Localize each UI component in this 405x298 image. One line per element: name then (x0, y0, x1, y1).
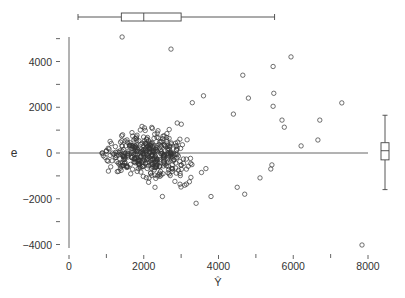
data-point (204, 166, 208, 170)
data-point (190, 101, 194, 105)
data-point (120, 35, 124, 39)
x-tick-label: 8000 (356, 260, 380, 272)
data-point (289, 55, 293, 59)
data-point (129, 172, 133, 176)
y-box-iqr (381, 143, 389, 160)
data-point (271, 104, 275, 108)
data-point (119, 134, 123, 138)
data-point (113, 144, 117, 148)
y-tick-label: −2000 (23, 193, 53, 205)
data-point (243, 192, 247, 196)
data-point (120, 133, 124, 137)
data-point (130, 167, 134, 171)
data-point (318, 118, 322, 122)
data-point (340, 101, 344, 105)
data-point (109, 165, 113, 169)
data-point (153, 185, 157, 189)
data-point (169, 47, 173, 51)
data-point (271, 64, 275, 68)
data-point (246, 96, 250, 100)
data-point (184, 157, 188, 161)
data-point (152, 136, 156, 140)
data-point (179, 167, 183, 171)
data-point (199, 170, 203, 174)
data-point (179, 185, 183, 189)
data-point (231, 112, 235, 116)
data-points (100, 35, 364, 247)
data-point (175, 121, 179, 125)
x-tick-label: 6000 (282, 260, 306, 272)
y-tick-label: −4000 (23, 239, 53, 251)
data-point (187, 180, 191, 184)
data-point (145, 166, 149, 170)
axes: −4000−200002000400002000400060008000 (23, 37, 380, 272)
y-tick-label: 2000 (29, 101, 53, 113)
x-tick-label: 4000 (207, 260, 231, 272)
data-point (282, 125, 286, 129)
data-point (270, 163, 274, 167)
data-point (258, 176, 262, 180)
data-point (235, 185, 239, 189)
data-point (189, 175, 193, 179)
x-tick-label: 2000 (132, 260, 156, 272)
data-point (272, 91, 276, 95)
data-point (160, 194, 164, 198)
data-point (185, 138, 189, 142)
data-point (179, 122, 183, 126)
data-point (280, 118, 284, 122)
data-point (241, 73, 245, 77)
data-point (209, 194, 213, 198)
y-axis-label: e (11, 146, 18, 160)
data-point (201, 94, 205, 98)
data-point (188, 156, 192, 160)
data-point (146, 180, 150, 184)
y-marginal-boxplot (381, 115, 389, 189)
residual-scatter-plot: −4000−200002000400002000400060008000 Ŷ e (0, 0, 405, 298)
x-marginal-boxplot (78, 13, 275, 21)
data-point (316, 138, 320, 142)
x-box-iqr (121, 13, 181, 21)
data-point (180, 143, 184, 147)
data-point (299, 144, 303, 148)
data-point (194, 201, 198, 205)
plot-canvas: −4000−200002000400002000400060008000 Ŷ e (0, 0, 405, 298)
y-tick-label: 4000 (29, 56, 53, 68)
data-point (178, 182, 182, 186)
data-point (360, 243, 364, 247)
data-point (189, 161, 193, 165)
data-point (167, 127, 171, 131)
x-axis-label: Ŷ (214, 276, 222, 288)
data-point (178, 137, 182, 141)
y-tick-label: 0 (46, 147, 52, 159)
x-tick-label: 0 (66, 260, 72, 272)
data-point (269, 167, 273, 171)
data-point (106, 169, 110, 173)
data-point (173, 179, 177, 183)
